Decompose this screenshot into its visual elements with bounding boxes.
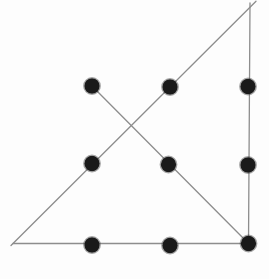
figure-background (0, 0, 269, 279)
dot-bottom-left (84, 237, 99, 252)
dot-bottom-right (241, 236, 256, 251)
dot-top-right (240, 79, 255, 94)
dot-top-middle (162, 79, 177, 94)
dot-top-left (84, 78, 99, 93)
dot-middle-right (240, 157, 255, 172)
dot-middle-left (84, 156, 99, 171)
dot-center (161, 157, 176, 172)
nine-dots-figure (0, 0, 269, 279)
dot-bottom-middle (162, 238, 177, 253)
nine-dots-svg (0, 0, 269, 279)
